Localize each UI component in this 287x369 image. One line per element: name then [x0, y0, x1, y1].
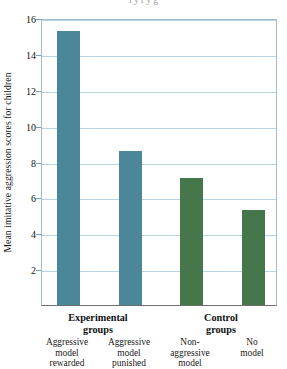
y-tick-label-8: 8	[16, 157, 36, 168]
bar-2	[119, 151, 142, 305]
category-label-4: Nomodel	[219, 337, 285, 358]
category-label-2: Aggressivemodelpunished	[96, 337, 162, 369]
category-label-line1: Non-	[157, 337, 223, 348]
y-tick-label-6: 6	[16, 193, 36, 204]
clipped-header-text: l y t y g	[0, 0, 287, 8]
y-tick-label-12: 12	[16, 85, 36, 96]
category-label-3: Non-aggressivemodel	[157, 337, 223, 369]
y-tick-label-2: 2	[16, 265, 36, 276]
y-axis-title: Mean imitative aggression scores for chi…	[0, 17, 14, 307]
category-label-line2: model	[96, 348, 162, 359]
group-heading-line1: Control	[161, 312, 281, 324]
y-tick-label-10: 10	[16, 121, 36, 132]
group-heading-line1: Experimental	[38, 312, 158, 324]
group-heading-2: Controlgroups	[161, 312, 281, 335]
bar-1	[57, 31, 80, 305]
category-label-line3: punished	[96, 358, 162, 369]
gridline-16	[42, 20, 276, 21]
category-label-line2: aggressive	[157, 348, 223, 359]
category-label-line3: model	[157, 358, 223, 369]
category-label-1: Aggressivemodelrewarded	[34, 337, 100, 369]
group-heading-1: Experimentalgroups	[38, 312, 158, 335]
category-label-line3: rewarded	[34, 358, 100, 369]
y-axis-title-text: Mean imitative aggression scores for chi…	[2, 72, 13, 252]
category-label-line2: model	[34, 348, 100, 359]
category-label-line1: Aggressive	[34, 337, 100, 348]
y-tick-label-14: 14	[16, 49, 36, 60]
plot-area	[41, 19, 277, 306]
category-label-line2: model	[219, 348, 285, 359]
group-heading-line2: groups	[38, 324, 158, 336]
bar-4	[242, 210, 265, 305]
category-label-line1: Aggressive	[96, 337, 162, 348]
bar-3	[180, 178, 203, 305]
y-tick-label-4: 4	[16, 229, 36, 240]
group-heading-line2: groups	[161, 324, 281, 336]
y-tick-label-16: 16	[16, 14, 36, 25]
category-label-line1: No	[219, 337, 285, 348]
